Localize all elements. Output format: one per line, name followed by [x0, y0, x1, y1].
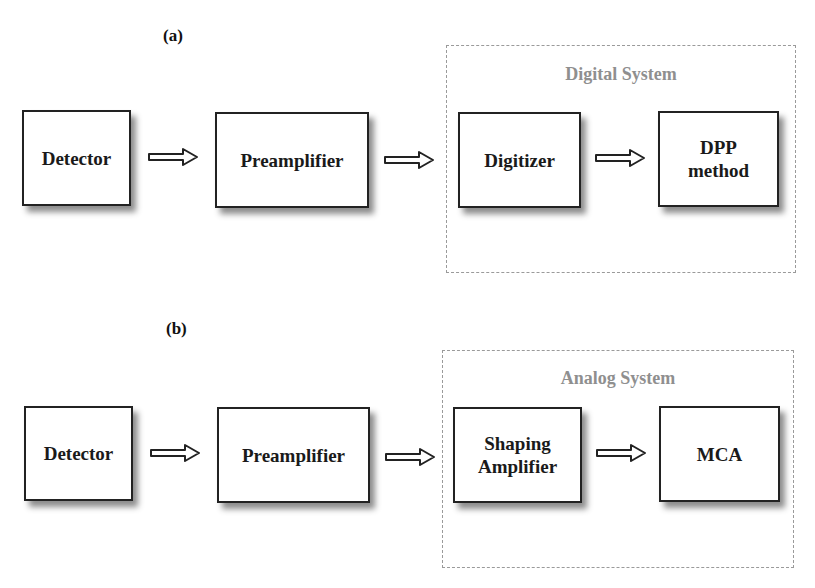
arrow-right-icon [594, 147, 646, 169]
preamplifier-block-b: Preamplifier [217, 407, 370, 503]
dpp-label-line2: method [688, 159, 749, 182]
digital-system-title: Digital System [447, 64, 795, 85]
arrow-right-icon [384, 446, 436, 468]
arrow-right-icon [595, 442, 647, 464]
panel-label-b: (b) [166, 319, 187, 339]
detector-block-b: Detector [24, 406, 133, 501]
analog-system-title: Analog System [443, 368, 793, 389]
panel-label-a: (a) [163, 26, 183, 46]
shaping-label-line1: Shaping [484, 432, 551, 455]
detector-label: Detector [42, 147, 112, 170]
shaping-label-line2: Amplifier [478, 455, 557, 478]
arrow-right-icon [149, 442, 201, 464]
digitizer-block: Digitizer [458, 112, 581, 208]
arrow-right-icon [147, 146, 199, 168]
preamplifier-label: Preamplifier [242, 444, 345, 467]
preamplifier-label: Preamplifier [240, 149, 343, 172]
arrow-right-icon [383, 149, 435, 171]
mca-label: MCA [697, 443, 742, 466]
dpp-label-line1: DPP [700, 136, 737, 159]
preamplifier-block-a: Preamplifier [215, 112, 369, 208]
dpp-method-block: DPP method [658, 111, 779, 207]
mca-block: MCA [659, 406, 780, 502]
digitizer-label: Digitizer [484, 149, 555, 172]
detector-block-a: Detector [22, 110, 131, 206]
shaping-amplifier-block: Shaping Amplifier [453, 407, 582, 503]
detector-label: Detector [44, 442, 114, 465]
